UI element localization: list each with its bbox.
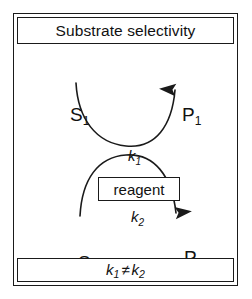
reaction-arrow-k1 [76, 83, 175, 146]
substrate-selectivity-figure: Substrate selectivity S1 P1 S2 P2 k1 k2 … [0, 0, 252, 299]
figure-title-text: Substrate selectivity [56, 22, 196, 40]
footer-k1-base: k [106, 261, 114, 278]
rate-k1-subscript: 1 [136, 156, 142, 167]
rate-constant-label-k1: k1 [128, 148, 141, 167]
footer-inequality: k1≠k2 [106, 261, 145, 280]
reaction-scheme-canvas: S1 P1 S2 P2 k1 k2 reagent [14, 45, 237, 257]
reagent-node-box: reagent [98, 177, 180, 201]
rate-k2-base: k [131, 208, 139, 225]
footer-k2-subscript: 2 [139, 268, 145, 280]
figure-title-box: Substrate selectivity [17, 17, 234, 44]
figure-footer-box: k1≠k2 [17, 258, 234, 282]
species-p1-base: P [182, 104, 195, 125]
rate-constant-label-k2: k2 [131, 209, 144, 228]
species-label-s1: S1 [70, 105, 89, 127]
rate-k1-base: k [128, 147, 136, 164]
species-label-p1: P1 [182, 105, 201, 127]
species-s1-base: S [70, 104, 83, 125]
species-p1-subscript: 1 [195, 114, 202, 128]
reagent-node-label: reagent [114, 181, 165, 198]
reaction-arrows-svg [14, 45, 237, 257]
rate-k2-subscript: 2 [139, 217, 145, 228]
footer-k2-base: k [132, 261, 140, 278]
species-s1-subscript: 1 [83, 114, 90, 128]
not-equal-icon: ≠ [119, 261, 131, 278]
